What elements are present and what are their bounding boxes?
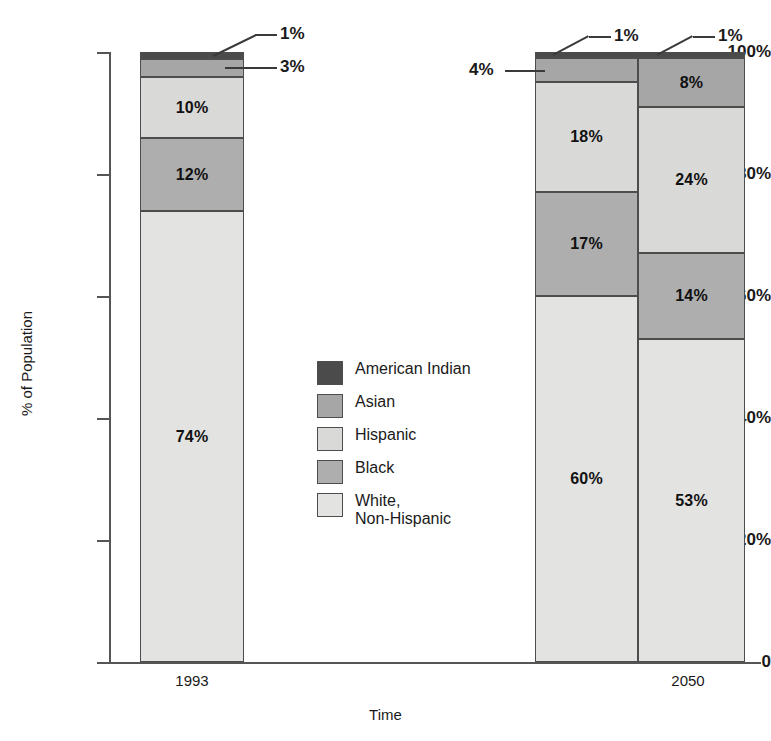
stacked-bar-chart: 100% 80% 60% 40% 20% 0 % of Population 1…	[0, 0, 771, 741]
segment-2050b-hispanic[interactable]: 24%	[638, 107, 745, 253]
segment-label-1993-hispanic: 10%	[176, 99, 209, 117]
callout-line-1993-american-indian-h	[255, 34, 277, 36]
x-axis-title: Time	[0, 706, 771, 723]
callout-label-2050a-american-indian: 1%	[614, 27, 639, 44]
x-axis-line	[109, 662, 761, 664]
callout-line-2050a-american-indian-h	[589, 36, 611, 38]
segment-1993-hispanic[interactable]: 10%	[140, 77, 244, 138]
legend-item-white-non-hispanic[interactable]: White, Non-Hispanic	[317, 492, 471, 529]
callout-label-2050b-american-indian: 1%	[718, 27, 743, 44]
callout-line-2050a-asian	[505, 70, 545, 72]
legend-item-american-indian[interactable]: American Indian	[317, 360, 471, 385]
callout-label-1993-american-indian: 1%	[280, 25, 305, 42]
y-axis-line	[109, 52, 111, 664]
segment-2050b-white[interactable]: 53%	[638, 339, 745, 662]
legend-label-hispanic: Hispanic	[355, 426, 416, 444]
legend-item-asian[interactable]: Asian	[317, 393, 471, 418]
callout-label-1993-asian: 3%	[280, 58, 305, 75]
segment-label-2050b-hispanic: 24%	[675, 171, 708, 189]
y-tick-20	[97, 540, 110, 542]
segment-1993-black[interactable]: 12%	[140, 138, 244, 211]
callout-line-2050b-american-indian-h	[693, 36, 715, 38]
segment-label-2050b-asian: 8%	[680, 74, 704, 92]
y-tick-100	[97, 52, 110, 54]
x-tick-label-1993: 1993	[141, 672, 243, 689]
legend-label-black: Black	[355, 459, 394, 477]
segment-1993-american-indian[interactable]	[140, 52, 244, 59]
legend-label-white-non-hispanic: White, Non-Hispanic	[355, 492, 451, 529]
segment-2050a-hispanic[interactable]: 18%	[535, 82, 638, 192]
segment-2050b-black[interactable]: 14%	[638, 253, 745, 339]
segment-label-2050b-black: 14%	[675, 287, 708, 305]
segment-label-2050a-black: 17%	[570, 235, 603, 253]
segment-2050a-black[interactable]: 17%	[535, 192, 638, 296]
segment-label-2050a-hispanic: 18%	[570, 128, 603, 146]
segment-2050a-white[interactable]: 60%	[535, 296, 638, 662]
legend-label-asian: Asian	[355, 393, 395, 411]
segment-2050a-asian[interactable]	[535, 58, 638, 82]
bar-2050-a[interactable]: 60% 17% 18%	[535, 52, 638, 662]
callout-label-2050a-asian: 4%	[469, 61, 494, 78]
segment-2050a-american-indian[interactable]	[535, 52, 638, 58]
legend-swatch-asian	[317, 394, 343, 418]
y-tick-60	[97, 296, 110, 298]
legend-swatch-white-non-hispanic	[317, 493, 343, 517]
y-tick-40	[97, 418, 110, 420]
bar-2050-b[interactable]: 53% 14% 24% 8%	[638, 52, 745, 662]
legend: American Indian Asian Hispanic Black Whi…	[317, 360, 471, 529]
segment-label-2050a-white: 60%	[570, 470, 603, 488]
legend-swatch-hispanic	[317, 427, 343, 451]
y-tick-0	[97, 662, 110, 664]
y-tick-80	[97, 174, 110, 176]
legend-label-american-indian: American Indian	[355, 360, 471, 378]
legend-item-black[interactable]: Black	[317, 459, 471, 484]
y-axis-title: % of Population	[18, 274, 35, 454]
segment-1993-white[interactable]: 74%	[140, 211, 244, 662]
x-tick-label-2050: 2050	[637, 672, 739, 689]
segment-label-2050b-white: 53%	[675, 492, 708, 510]
segment-2050b-american-indian[interactable]	[638, 52, 745, 58]
legend-swatch-american-indian	[317, 361, 343, 385]
segment-label-1993-white: 74%	[176, 428, 209, 446]
legend-swatch-black	[317, 460, 343, 484]
segment-2050b-asian[interactable]: 8%	[638, 58, 745, 107]
legend-item-hispanic[interactable]: Hispanic	[317, 426, 471, 451]
bar-1993[interactable]: 74% 12% 10%	[140, 52, 244, 662]
callout-line-1993-asian	[225, 67, 277, 69]
segment-label-1993-black: 12%	[176, 166, 209, 184]
